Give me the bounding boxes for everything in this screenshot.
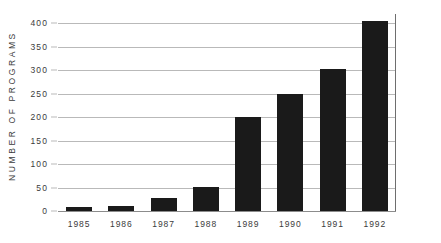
y-axis-tick-mark xyxy=(51,187,57,188)
y-axis-tick-label: 350 xyxy=(16,42,48,52)
x-axis-tick-label: 1991 xyxy=(310,219,356,229)
y-axis-tick-label: 250 xyxy=(16,89,48,99)
gridline xyxy=(58,47,396,48)
y-axis-tick-mark xyxy=(51,140,57,141)
x-axis-tick-label: 1985 xyxy=(56,219,102,229)
x-axis-tick-label: 1988 xyxy=(183,219,229,229)
x-axis-tick-label: 1986 xyxy=(98,219,144,229)
axis-baseline xyxy=(58,211,396,212)
plot-right-border xyxy=(395,14,396,211)
y-axis-tick-mark xyxy=(51,117,57,118)
y-axis-tick-mark xyxy=(51,46,57,47)
bar xyxy=(320,69,346,211)
bar xyxy=(66,207,92,211)
bar xyxy=(193,187,219,211)
gridline xyxy=(58,23,396,24)
x-axis-tick-label: 1990 xyxy=(267,219,313,229)
y-axis-tick-label: 0 xyxy=(16,206,48,216)
bar xyxy=(277,94,303,211)
x-axis-tick-label: 1992 xyxy=(352,219,398,229)
y-axis-tick-mark xyxy=(51,164,57,165)
bar xyxy=(362,21,388,211)
y-axis-tick-mark xyxy=(51,93,57,94)
y-axis-tick-label: 200 xyxy=(16,112,48,122)
y-axis-tick-label: 150 xyxy=(16,136,48,146)
bar xyxy=(235,117,261,211)
y-axis-tick-mark xyxy=(51,211,57,212)
y-axis-tick-label: 100 xyxy=(16,159,48,169)
y-axis-title: NUMBER OF PROGRAMS xyxy=(0,0,24,212)
y-axis-tick-mark xyxy=(51,23,57,24)
y-axis-tick-label: 50 xyxy=(16,183,48,193)
bar-chart-figure: NUMBER OF PROGRAMS 050100150200250300350… xyxy=(0,0,441,243)
y-axis-tick-label: 400 xyxy=(16,18,48,28)
x-axis-tick-label: 1989 xyxy=(225,219,271,229)
plot-area xyxy=(58,14,396,211)
bar xyxy=(108,206,134,211)
bar xyxy=(151,198,177,211)
x-axis-tick-label: 1987 xyxy=(141,219,187,229)
y-axis-tick-label: 300 xyxy=(16,65,48,75)
y-axis-tick-mark xyxy=(51,70,57,71)
